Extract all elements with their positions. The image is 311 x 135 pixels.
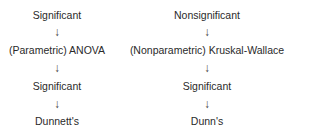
step-significant-normality: Significant [0,9,137,21]
down-arrow-icon: ↓ [0,62,137,74]
down-arrow-icon: ↓ [127,98,287,110]
step-nonsignificant-normality: Nonsignificant [127,9,287,21]
down-arrow-icon: ↓ [0,98,137,110]
down-arrow-icon: ↓ [0,26,137,38]
step-dunns: Dunn's [127,115,287,127]
step-kruskal-wallace: (Nonparametric) Kruskal-Wallace [127,44,287,56]
down-arrow-icon: ↓ [127,62,287,74]
step-significant-result: Significant [127,80,287,92]
step-dunnetts: Dunnett's [0,115,137,127]
nonparametric-branch: Nonsignificant ↓ (Nonparametric) Kruskal… [127,0,287,135]
down-arrow-icon: ↓ [127,26,287,38]
step-anova: (Parametric) ANOVA [0,44,137,56]
parametric-branch: Significant ↓ (Parametric) ANOVA ↓ Signi… [0,0,137,135]
step-significant-result: Significant [0,80,137,92]
